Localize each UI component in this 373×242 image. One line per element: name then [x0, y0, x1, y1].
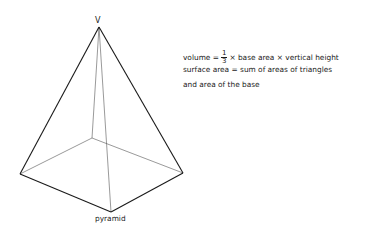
edge-apex-right: [99, 27, 183, 173]
surface-area-formula-line1: surface area = sum of areas of triangles: [183, 65, 332, 74]
edge-base-back-right: [92, 138, 183, 173]
edge-base-front-right: [111, 173, 183, 212]
surface-area-formula-line2: and area of the base: [183, 80, 260, 89]
diagram-caption: pyramid: [95, 214, 126, 223]
visible-edges: [20, 27, 183, 212]
edge-base-left-front: [20, 174, 111, 212]
volume-suffix: × base area × vertical height: [229, 53, 338, 62]
one-third-fraction: 1 3: [221, 50, 227, 65]
edge-base-left-back: [20, 138, 92, 174]
volume-formula: volume = 1 3 × base area × vertical heig…: [183, 50, 339, 65]
edge-apex-left: [20, 27, 99, 174]
fraction-denominator: 3: [222, 58, 226, 65]
edge-apex-back: [92, 27, 99, 138]
pyramid-drawing: [0, 0, 373, 242]
vertex-label: V: [95, 16, 100, 25]
edge-apex-front: [99, 27, 111, 212]
volume-prefix: volume =: [183, 53, 219, 62]
